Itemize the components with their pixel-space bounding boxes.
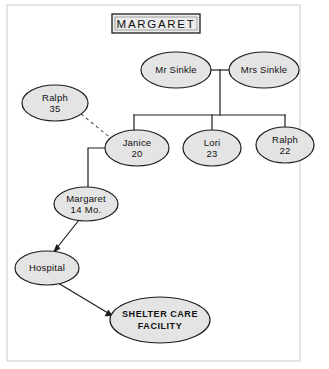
genealogy-diagram: MARGARET: [0, 0, 329, 369]
node-janice-20[interactable]: Janice 20: [105, 130, 169, 166]
node-label-margaret-name: Margaret: [66, 193, 106, 204]
node-label-mr-sinkle: Mr Sinkle: [155, 64, 196, 75]
diagram-canvas: MARGARET: [0, 0, 329, 369]
node-label-hospital: Hospital: [29, 262, 65, 273]
node-label-ralph-35-age: 35: [49, 103, 60, 114]
edge-hospital-shelter: [58, 283, 113, 316]
node-mrs-sinkle[interactable]: Mrs Sinkle: [229, 52, 299, 88]
node-label-janice-name: Janice: [123, 137, 152, 148]
edge-janice-margaret: [88, 148, 105, 188]
node-label-shelter-line2: FACILITY: [138, 321, 182, 331]
node-label-ralph-22-name: Ralph: [272, 134, 298, 145]
node-label-ralph-22-age: 22: [279, 145, 290, 156]
edge-ralph-janice-dashed: [81, 114, 112, 139]
node-ralph-22[interactable]: Ralph 22: [256, 127, 314, 163]
node-label-lori-name: Lori: [204, 137, 221, 148]
node-label-ralph-35-name: Ralph: [42, 92, 68, 103]
node-margaret-14mo[interactable]: Margaret 14 Mo.: [54, 187, 118, 221]
node-ralph-35[interactable]: Ralph 35: [22, 85, 88, 121]
edge-margaret-hospital: [53, 220, 79, 253]
node-label-mrs-sinkle: Mrs Sinkle: [241, 64, 287, 75]
diagram-title: MARGARET: [117, 18, 196, 30]
node-label-janice-age: 20: [131, 148, 142, 159]
node-shelter-care-facility[interactable]: SHELTER CARE FACILITY: [110, 297, 210, 343]
node-hospital[interactable]: Hospital: [15, 251, 79, 285]
title-box: MARGARET: [112, 14, 200, 33]
node-label-shelter-line1: SHELTER CARE: [122, 309, 198, 319]
node-lori-23[interactable]: Lori 23: [183, 130, 241, 166]
node-mr-sinkle[interactable]: Mr Sinkle: [141, 52, 211, 88]
node-label-lori-age: 23: [206, 148, 217, 159]
node-label-margaret-age: 14 Mo.: [71, 204, 102, 215]
